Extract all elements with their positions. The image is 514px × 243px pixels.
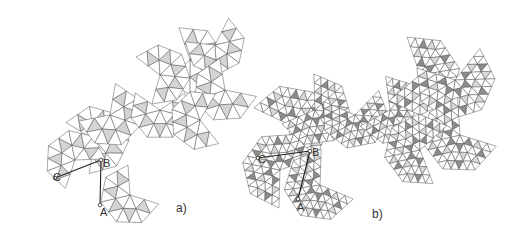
panel-label-b: b) xyxy=(372,208,383,220)
point-label-a-B: B xyxy=(103,158,110,169)
panel-label-a: a) xyxy=(176,202,187,214)
net-triangle xyxy=(136,51,148,66)
geodesic-nets-diagram xyxy=(0,0,514,243)
point-label-a-C: C xyxy=(53,172,61,183)
net-triangle xyxy=(474,49,484,57)
point-label-b-B: B xyxy=(312,147,319,158)
point-label-b-C: C xyxy=(258,154,266,165)
figure: a) b) A B C A B C xyxy=(0,0,514,243)
point-label-b-A: A xyxy=(297,202,304,213)
net-triangle xyxy=(373,91,381,98)
net-triangle xyxy=(66,115,81,132)
point-label-a-A: A xyxy=(100,207,107,218)
